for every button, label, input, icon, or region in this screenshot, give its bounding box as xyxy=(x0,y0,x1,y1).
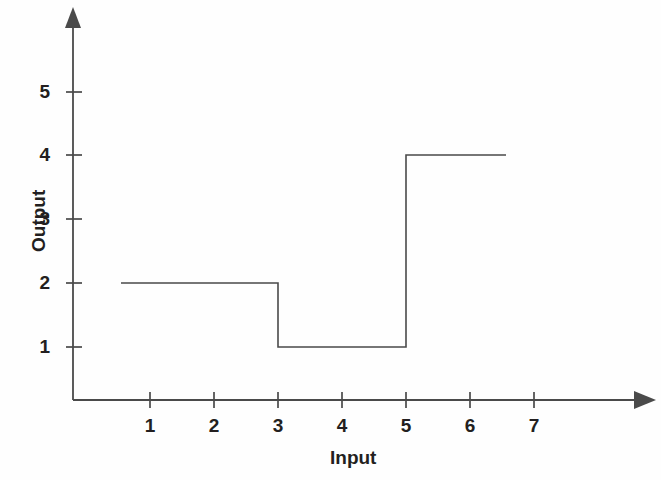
y-tick-label-2: 2 xyxy=(26,273,50,292)
x-tick-label-2: 2 xyxy=(202,416,226,435)
y-axis-title: Output xyxy=(28,190,50,252)
y-tick-label-4: 4 xyxy=(26,145,50,164)
y-tick-label-5: 5 xyxy=(26,82,50,101)
x-tick-label-6: 6 xyxy=(458,416,482,435)
x-axis-title: Input xyxy=(330,447,376,469)
step-curve xyxy=(122,155,505,347)
x-axis-arrow-icon xyxy=(634,391,656,409)
x-tick-label-4: 4 xyxy=(330,416,354,435)
x-tick-label-7: 7 xyxy=(522,416,546,435)
step-function-chart: 5 4 3 2 1 1 2 3 4 5 6 7 Output Input xyxy=(0,0,661,480)
y-tick-marks xyxy=(66,92,82,347)
y-tick-label-1: 1 xyxy=(26,337,50,356)
x-tick-label-5: 5 xyxy=(394,416,418,435)
y-axis-arrow-icon xyxy=(65,7,81,28)
x-tick-label-1: 1 xyxy=(138,416,162,435)
x-tick-label-3: 3 xyxy=(266,416,290,435)
plot-area xyxy=(0,0,661,480)
